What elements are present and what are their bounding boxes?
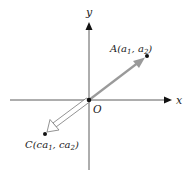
- origin-label: O: [93, 103, 102, 115]
- point-c: [43, 132, 47, 136]
- vector-scaling-diagram: y x O A(a1, a2) C(ca1, ca2): [0, 0, 190, 186]
- vector-a: [89, 62, 139, 100]
- vector-c: [47, 98, 90, 132]
- x-axis-arrowhead: [164, 97, 172, 104]
- y-axis-label: y: [85, 6, 93, 19]
- point-c-label: C(ca1, ca2): [25, 139, 79, 152]
- point-a-label: A(a1, a2): [109, 43, 152, 56]
- y-axis-arrowhead: [86, 22, 93, 30]
- point-origin: [87, 98, 92, 103]
- x-axis-label: x: [176, 94, 183, 107]
